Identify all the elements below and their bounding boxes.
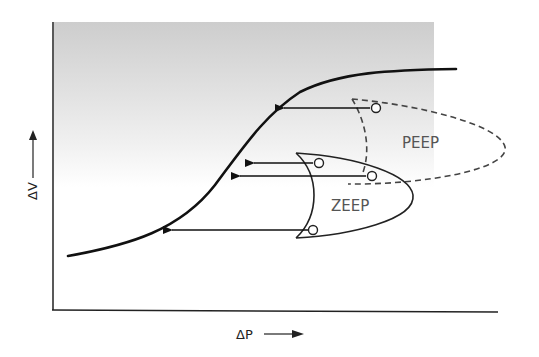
pv-diagram: PEEP ZEEP ΔV ΔP — [0, 0, 539, 357]
zeep-label: ZEEP — [331, 197, 369, 215]
peep-label: PEEP — [402, 134, 439, 152]
x-axis-label-group: ΔP — [236, 327, 304, 342]
x-axis-label: ΔP — [236, 327, 253, 342]
y-axis-label-group: ΔV — [25, 130, 40, 200]
x-axis — [52, 310, 498, 312]
y-axis-label: ΔV — [25, 182, 40, 200]
